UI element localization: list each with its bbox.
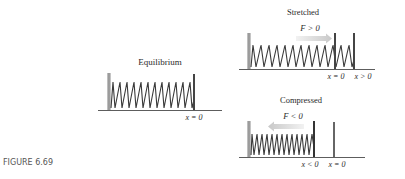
position-label-zero: x = 0 [327, 72, 345, 81]
force-label: F > 0 [299, 23, 320, 33]
compressed-title: Compressed [280, 95, 323, 105]
equilibrium-plate-marker [334, 33, 336, 69]
force-label: F < 0 [282, 111, 303, 121]
plate [353, 33, 355, 69]
compressed-panel: Compressed F < 0 x < 0 x = 0 [239, 95, 365, 169]
spring-coil [111, 82, 194, 108]
position-label-positive: x > 0 [354, 72, 372, 81]
spring-coil [251, 45, 354, 67]
force-arrow-right-icon [296, 34, 332, 44]
position-label: x = 0 [185, 113, 203, 122]
figure-caption: FIGURE 6.69 [3, 158, 53, 167]
force-arrow-left-icon [268, 122, 304, 132]
wall [247, 33, 251, 69]
position-label-negative: x < 0 [301, 160, 319, 169]
equilibrium-plate-marker [333, 122, 335, 157]
equilibrium-panel: Equilibrium x = 0 [98, 57, 222, 122]
position-label-zero: x = 0 [328, 160, 346, 169]
plate [193, 74, 195, 110]
stretched-panel: Stretched F > 0 x = 0 x > 0 [239, 7, 375, 81]
wall [107, 73, 111, 110]
stretched-title: Stretched [287, 7, 320, 17]
wall [247, 121, 251, 157]
spring-figure: Equilibrium x = 0 Stretched F > 0 x = 0 … [0, 0, 405, 179]
equilibrium-title: Equilibrium [138, 57, 182, 67]
spring-coil [251, 134, 314, 155]
plate [313, 121, 315, 157]
